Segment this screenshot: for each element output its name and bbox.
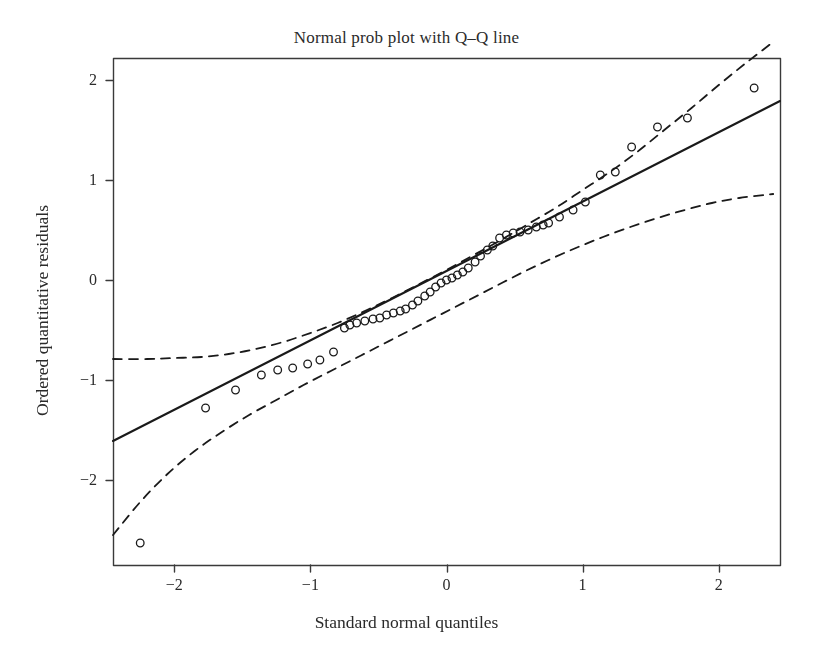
- x-tick-label: −2: [166, 576, 183, 594]
- x-tick-label: −1: [302, 576, 319, 594]
- y-tick-label: 2: [71, 71, 97, 89]
- y-axis-label: Ordered quantitative residuals: [32, 151, 53, 471]
- plot-canvas: [0, 0, 813, 656]
- y-tick-label: −2: [71, 471, 97, 489]
- x-axis-label: Standard normal quantiles: [0, 612, 813, 633]
- y-tick-label: 0: [71, 271, 97, 289]
- qq-plot-figure: Normal prob plot with Q–Q line −2−1012−2…: [0, 0, 813, 656]
- y-tick-label: 1: [71, 171, 97, 189]
- x-tick-label: 0: [443, 576, 451, 594]
- y-tick-label: −1: [71, 371, 97, 389]
- x-tick-label: 1: [579, 576, 587, 594]
- x-tick-label: 2: [715, 576, 723, 594]
